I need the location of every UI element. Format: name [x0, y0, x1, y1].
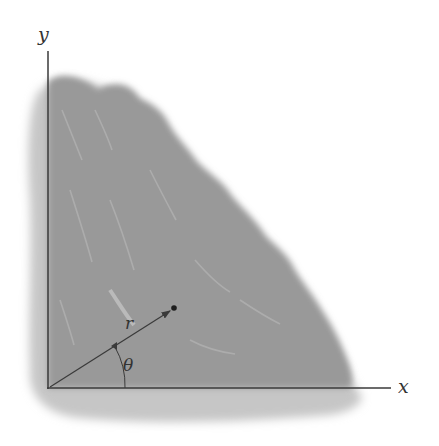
- point-marker: [171, 305, 177, 311]
- x-axis-label: x: [398, 375, 409, 397]
- y-axis-label: y: [37, 23, 49, 45]
- shaded-region: [48, 76, 352, 388]
- radius-label: r: [125, 313, 134, 333]
- angle-label: θ: [123, 355, 133, 375]
- diagram-canvas: y x r θ: [0, 0, 439, 446]
